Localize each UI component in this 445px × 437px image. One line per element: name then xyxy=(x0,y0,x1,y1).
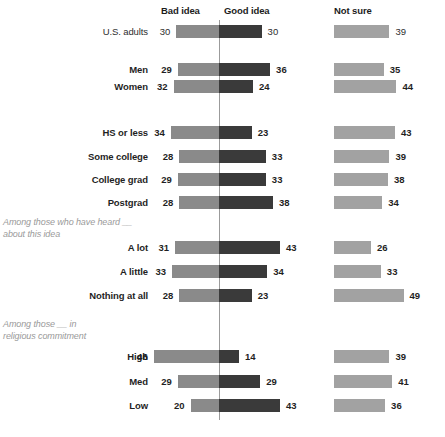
value-good-idea: 23 xyxy=(258,290,269,301)
value-bad-idea: 28 xyxy=(147,151,173,162)
bar-good-idea xyxy=(219,25,262,38)
value-not-sure: 36 xyxy=(391,400,402,411)
bar-good-idea xyxy=(219,375,260,388)
bar-not-sure xyxy=(334,126,395,139)
value-bad-idea: 29 xyxy=(146,64,172,75)
bar-not-sure xyxy=(334,350,389,363)
bar-not-sure xyxy=(334,241,371,254)
bar-good-idea xyxy=(219,80,253,93)
value-not-sure: 39 xyxy=(395,351,406,362)
chart-row: College grad293338 xyxy=(0,173,445,187)
value-good-idea: 29 xyxy=(266,376,277,387)
group-note-religion: Among those __ in religious commitment xyxy=(3,319,86,342)
row-label: Some college xyxy=(0,151,148,162)
value-good-idea: 43 xyxy=(286,242,297,253)
bar-not-sure xyxy=(334,196,382,209)
chart-row: HS or less342343 xyxy=(0,126,445,140)
value-good-idea: 36 xyxy=(276,64,287,75)
row-label: Nothing at all xyxy=(0,290,148,301)
bar-good-idea xyxy=(219,150,266,163)
bar-bad-idea xyxy=(172,265,219,278)
chart-row: A little333433 xyxy=(0,265,445,279)
value-bad-idea: 31 xyxy=(143,242,169,253)
chart-row: Postgrad283834 xyxy=(0,196,445,210)
value-bad-idea: 46 xyxy=(122,351,148,362)
value-not-sure: 34 xyxy=(388,197,399,208)
bar-bad-idea xyxy=(171,126,219,139)
bar-bad-idea xyxy=(179,150,219,163)
value-not-sure: 35 xyxy=(390,64,401,75)
value-good-idea: 30 xyxy=(268,26,279,37)
chart-row: U.S. adults303039 xyxy=(0,25,445,39)
value-good-idea: 33 xyxy=(272,151,283,162)
value-not-sure: 39 xyxy=(395,151,406,162)
bar-bad-idea xyxy=(178,173,219,186)
diverging-bar-chart: Bad ideaGood ideaNot sureAmong those who… xyxy=(0,0,445,437)
value-bad-idea: 28 xyxy=(147,290,173,301)
legend-label-good-idea: Good idea xyxy=(224,5,270,16)
row-label: Men xyxy=(0,64,148,75)
bar-bad-idea xyxy=(191,399,219,412)
bar-good-idea xyxy=(219,196,273,209)
bar-not-sure xyxy=(334,265,381,278)
value-not-sure: 33 xyxy=(387,266,398,277)
group-note-awareness: Among those who have heard __ about this… xyxy=(3,217,132,240)
value-not-sure: 41 xyxy=(398,376,409,387)
bar-not-sure xyxy=(334,150,389,163)
value-not-sure: 39 xyxy=(395,26,406,37)
bar-not-sure xyxy=(334,289,404,302)
bar-good-idea xyxy=(219,126,252,139)
bar-bad-idea xyxy=(179,196,219,209)
bar-bad-idea xyxy=(178,63,219,76)
row-label: Low xyxy=(0,400,148,411)
value-bad-idea: 28 xyxy=(147,197,173,208)
chart-row: High461439 xyxy=(0,350,445,364)
value-not-sure: 26 xyxy=(377,242,388,253)
value-bad-idea: 32 xyxy=(142,81,168,92)
bar-bad-idea xyxy=(178,375,219,388)
value-good-idea: 43 xyxy=(286,400,297,411)
chart-row: A lot314326 xyxy=(0,241,445,255)
chart-row: Low204336 xyxy=(0,399,445,413)
legend-label-not-sure: Not sure xyxy=(334,5,372,16)
value-good-idea: 38 xyxy=(279,197,290,208)
value-good-idea: 23 xyxy=(258,127,269,138)
bar-bad-idea xyxy=(174,80,219,93)
value-bad-idea: 20 xyxy=(159,400,185,411)
chart-row: Men293635 xyxy=(0,63,445,77)
bar-not-sure xyxy=(334,63,384,76)
value-good-idea: 33 xyxy=(272,174,283,185)
row-label: HS or less xyxy=(0,127,148,138)
bar-not-sure xyxy=(334,80,396,93)
value-not-sure: 49 xyxy=(410,290,421,301)
bar-good-idea xyxy=(219,241,280,254)
chart-row: Med292941 xyxy=(0,375,445,389)
row-label: Women xyxy=(0,81,148,92)
value-good-idea: 24 xyxy=(259,81,270,92)
bar-not-sure xyxy=(334,375,392,388)
chart-row: Nothing at all282349 xyxy=(0,289,445,303)
value-bad-idea: 29 xyxy=(146,376,172,387)
bar-good-idea xyxy=(219,173,266,186)
row-label: A little xyxy=(0,266,148,277)
bar-good-idea xyxy=(219,350,239,363)
row-label: U.S. adults xyxy=(0,26,148,37)
row-label: Postgrad xyxy=(0,197,148,208)
bar-good-idea xyxy=(219,399,280,412)
bar-bad-idea xyxy=(176,25,219,38)
value-bad-idea: 34 xyxy=(139,127,165,138)
value-not-sure: 38 xyxy=(394,174,405,185)
value-bad-idea: 29 xyxy=(146,174,172,185)
bar-bad-idea xyxy=(179,289,219,302)
row-label: College grad xyxy=(0,174,148,185)
bar-bad-idea xyxy=(154,350,219,363)
value-not-sure: 43 xyxy=(401,127,412,138)
value-good-idea: 34 xyxy=(273,266,284,277)
bar-not-sure xyxy=(334,173,388,186)
bar-good-idea xyxy=(219,265,267,278)
legend-label-bad-idea: Bad idea xyxy=(161,5,200,16)
value-not-sure: 44 xyxy=(402,81,413,92)
chart-row: Women322444 xyxy=(0,80,445,94)
bar-not-sure xyxy=(334,399,385,412)
value-good-idea: 14 xyxy=(245,351,256,362)
